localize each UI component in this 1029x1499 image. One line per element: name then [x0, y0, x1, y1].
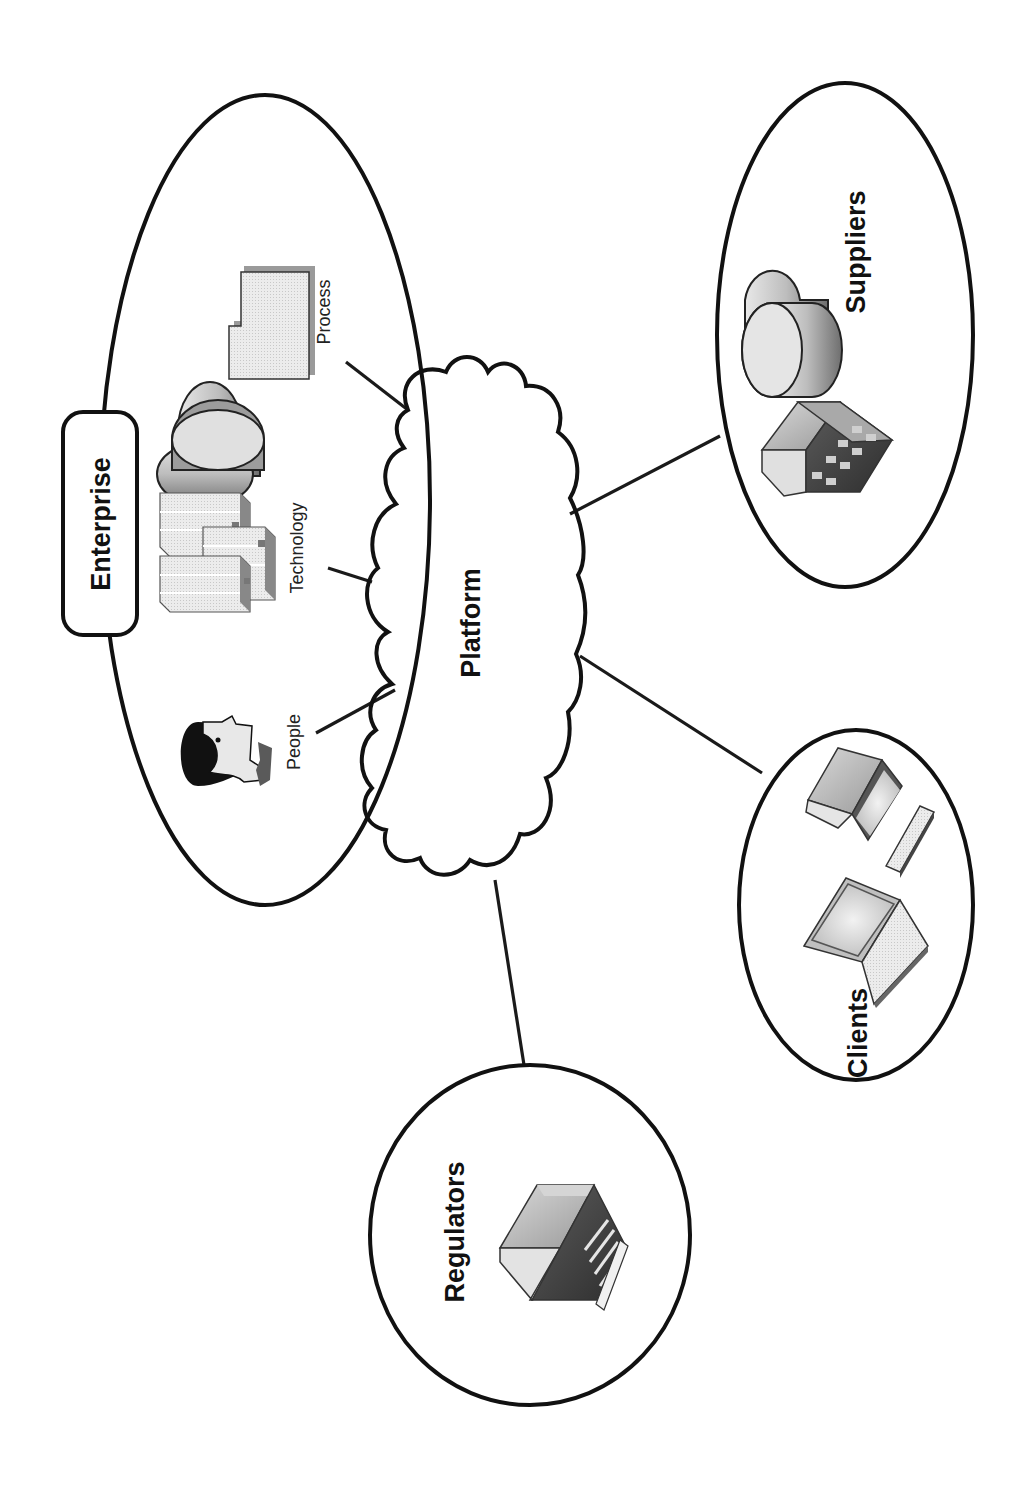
suppliers-group: Suppliers — [717, 83, 973, 587]
connector-technology-platform — [328, 568, 372, 582]
connector-platform-regulators — [495, 880, 524, 1065]
database-icon — [742, 271, 842, 397]
diagram-canvas: Enterprise Process — [0, 0, 1029, 1499]
clients-group: Clients — [739, 730, 973, 1080]
process-label: Process — [314, 279, 334, 344]
people-label: People — [284, 714, 304, 770]
enterprise-ellipse — [100, 95, 430, 905]
document-icon — [229, 266, 315, 379]
server-database-icon — [157, 382, 275, 612]
connector-platform-suppliers — [570, 436, 720, 514]
desktop-computer-icon — [806, 748, 902, 840]
building-icon — [762, 402, 892, 496]
government-building-icon — [500, 1185, 628, 1310]
connection-lines — [316, 362, 762, 1065]
enterprise-label-box: Enterprise — [63, 412, 137, 635]
clients-label: Clients — [843, 988, 873, 1078]
connector-platform-clients — [580, 656, 762, 773]
platform-label: Platform — [456, 568, 486, 678]
platform-cloud: Platform — [362, 357, 586, 875]
technology-label: Technology — [287, 502, 307, 593]
connector-people-platform — [316, 690, 395, 733]
regulators-group: Regulators — [370, 1065, 690, 1405]
regulators-label: Regulators — [440, 1161, 470, 1302]
suppliers-label: Suppliers — [841, 190, 871, 313]
person-head-icon — [181, 716, 272, 786]
enterprise-label: Enterprise — [86, 457, 116, 591]
keyboard-icon — [886, 806, 934, 878]
enterprise-group: Enterprise Process — [63, 95, 430, 905]
connector-process-platform — [346, 362, 408, 410]
